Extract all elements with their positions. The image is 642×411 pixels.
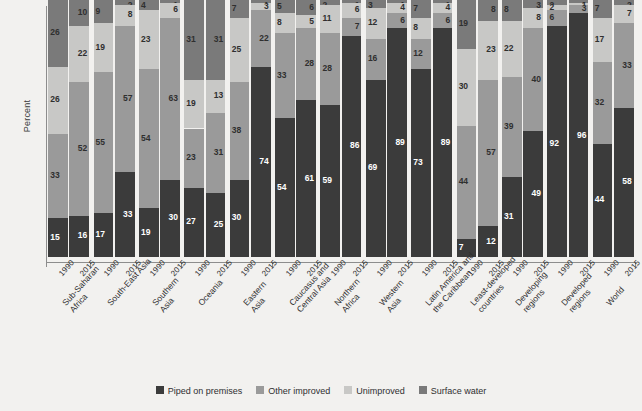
legend-swatch [344,386,352,394]
segment-value-label: 15 [50,233,59,242]
segment-value-label: 8 [491,5,496,14]
bar[interactable]: 166330 [160,0,180,257]
legend-item[interactable]: Unimproved [344,385,405,396]
legend-swatch [256,386,264,394]
segment-value-label: 23 [141,35,150,44]
bar[interactable]: 31133125 [206,0,226,257]
segment-value-label: 6 [309,3,314,12]
segment-value-label: 16 [368,54,377,63]
segment-value-label: 7 [232,4,237,13]
segment-value-label: 40 [532,75,541,84]
bar[interactable]: 273358 [614,0,634,257]
bar[interactable]: 10225216 [69,0,89,257]
segment-value-label: 89 [441,138,450,147]
segment-value-label: 96 [577,131,586,140]
segment-value-label: 58 [622,177,631,186]
bar[interactable]: 285733 [115,0,135,257]
bar[interactable]: 8223931 [502,0,522,257]
segment-value-label: 19 [141,228,150,237]
segment-value-label: 33 [277,71,286,80]
segment-value-label: 6 [355,5,360,14]
x-axis-region-label: NorthernAfrica [332,276,369,314]
bar[interactable]: 11396 [569,0,589,257]
segment-value-label: 13 [214,91,223,100]
x-axis-region-label: Developingregions [513,269,556,314]
bar-group: 211285916786 [318,0,363,257]
bar[interactable]: 9195517 [94,0,114,257]
segment-value-label: 31 [214,35,223,44]
legend-label: Unimproved [356,386,405,396]
segment-value-label: 44 [595,195,604,204]
segment-value-label: 28 [322,64,331,73]
segment-value-label: 6 [549,13,554,22]
segment-value-label: 22 [504,44,513,53]
bar-group: 8223931384049 [500,0,545,257]
legend-label: Piped on premises [168,386,243,396]
segment-value-label: 12 [368,18,377,27]
x-axis-region-label: World [604,285,626,308]
region-label-line1: Oceania [196,277,225,307]
segment-value-label: 26 [50,28,59,37]
bar[interactable]: 14689 [387,0,407,257]
bar[interactable]: 781273 [411,0,431,257]
segment-value-label: 31 [214,148,223,157]
segment-value-label: 3 [264,2,269,11]
segment-value-label: 23 [186,153,195,162]
segment-value-label: 16 [78,231,87,240]
x-axis-region-label: SouthernAsia [150,275,188,314]
legend-label: Surface water [431,386,487,396]
segment-value-label: 27 [186,217,195,226]
bar-group: 7173244273358 [591,0,636,257]
bar-group: 583354652861 [273,0,318,257]
bar[interactable]: 26263315 [48,0,68,257]
bar[interactable]: 22692 [547,0,567,257]
bar[interactable]: 384049 [523,0,543,257]
segment-value-label: 7 [355,22,360,31]
segment-value-label: 10 [78,8,87,17]
bar[interactable]: 16786 [342,0,362,257]
segment-value-label: 25 [232,45,241,54]
segment-value-label: 22 [259,34,268,43]
bar-group: 19304478235712 [454,0,499,257]
segment-value-label: 17 [96,230,105,239]
segment-value-label: 7 [459,243,464,252]
bar[interactable]: 4235419 [139,0,159,257]
segment-value-label: 5 [277,2,282,11]
bar[interactable]: 31192327 [184,0,204,257]
segment-value-label: 23 [486,45,495,54]
segment-value-label: 9 [96,7,101,16]
segment-value-label: 55 [96,138,105,147]
segment-value-label: 12 [486,237,495,246]
bar[interactable]: 7173244 [593,0,613,257]
segment-value-label: 19 [96,43,105,52]
segment-value-label: 57 [123,94,132,103]
bar[interactable]: 14689 [433,0,453,257]
bar[interactable]: 583354 [275,0,295,257]
segment-value-label: 5 [309,17,314,26]
region-label-line1: World [604,285,626,308]
x-axis-tick [46,262,47,267]
legend-item[interactable]: Surface water [419,385,487,396]
bar[interactable]: 8235712 [478,0,498,257]
segment-value-label: 69 [368,163,377,172]
segment-value-label: 25 [214,220,223,229]
segment-value-label: 86 [350,141,359,150]
bar-group: 2626331510225216 [46,0,91,257]
legend-item[interactable]: Piped on premises [156,385,243,396]
x-axis-region-label: Oceania [196,277,225,307]
x-axis-region-label: WesternAsia [377,278,413,315]
segment-value-label: 31 [504,212,513,221]
bar[interactable]: 3121669 [366,0,386,257]
bar-group: 4235419166330 [137,0,182,257]
segment-value-label: 12 [413,49,422,58]
bar[interactable]: 7253830 [230,0,250,257]
stacked-bar-chart: Percent 26263315102252169195517285733423… [0,0,642,411]
legend-item[interactable]: Other improved [256,385,330,396]
bar[interactable]: 132274 [251,0,271,257]
bar[interactable]: 2112859 [320,0,340,257]
segment-value-label: 4 [141,1,146,10]
bar[interactable]: 652861 [296,0,316,257]
bar[interactable]: 1930447 [457,0,477,257]
segment-value-label: 54 [277,183,286,192]
x-axis-region-label: Developedregions [559,271,601,315]
